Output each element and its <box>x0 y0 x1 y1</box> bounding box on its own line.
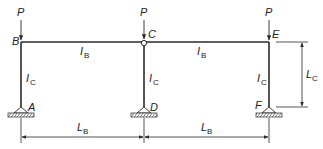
node-label-A: A <box>27 101 35 113</box>
hinge-icon <box>141 40 146 45</box>
load-label-E: P <box>265 6 273 18</box>
svg-text:I: I <box>197 45 200 57</box>
columns <box>21 42 269 107</box>
svg-text:C: C <box>30 78 36 87</box>
svg-text:B: B <box>83 127 88 136</box>
node-label-C: C <box>148 28 156 40</box>
dimension-label-span-left: L B <box>77 121 88 136</box>
dimension-label-height: L C <box>306 68 318 83</box>
svg-text:B: B <box>207 127 212 136</box>
node-label-D: D <box>150 101 158 113</box>
svg-text:B: B <box>84 51 89 60</box>
svg-text:B: B <box>201 51 206 60</box>
svg-text:C: C <box>153 78 159 87</box>
dimension-label-span-right: L B <box>201 121 212 136</box>
member-label-col-left: I C <box>26 72 36 87</box>
svg-text:I: I <box>80 45 83 57</box>
pin-support-icon <box>262 107 276 113</box>
svg-text:C: C <box>261 78 267 87</box>
svg-text:C: C <box>312 74 318 83</box>
svg-text:I: I <box>149 72 152 84</box>
ground-hatch-icon <box>131 113 157 117</box>
member-label-beam-right: I B <box>197 45 206 60</box>
member-label-col-mid: I C <box>149 72 159 87</box>
pin-support-icon <box>137 107 151 113</box>
frame-diagram: P P P B C E A D F I B I B I C I C I C L … <box>0 0 323 149</box>
node-label-E: E <box>272 28 280 40</box>
load-label-C: P <box>140 6 148 18</box>
member-label-beam-left: I B <box>80 45 89 60</box>
ground-hatch-icon <box>8 113 34 117</box>
pin-support-icon <box>14 107 28 113</box>
member-label-col-right: I C <box>257 72 267 87</box>
ground-hatch-icon <box>256 113 282 117</box>
load-label-B: P <box>17 6 25 18</box>
svg-text:I: I <box>26 72 29 84</box>
node-label-F: F <box>255 99 263 111</box>
node-label-B: B <box>12 35 19 47</box>
svg-text:I: I <box>257 72 260 84</box>
